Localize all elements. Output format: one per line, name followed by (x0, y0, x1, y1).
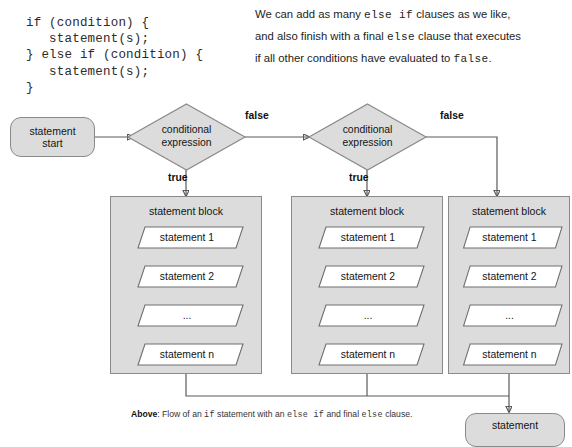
start-node-line1: statement (29, 125, 75, 138)
statement-2-label: statement 2 (312, 265, 424, 288)
statement-block-3-title: statement block (449, 205, 569, 217)
caption-code1: if (204, 410, 215, 420)
statement-n-label: statement n (131, 343, 243, 366)
statement-2-shape: statement 2 (457, 265, 562, 288)
edge-label-false-2: false (440, 110, 464, 121)
decision-2-line1: conditional (343, 124, 393, 137)
statement-ellipsis-label: ... (457, 304, 562, 327)
statement-ellipsis-shape: ... (131, 304, 243, 327)
decision-1-line2: expression (161, 137, 211, 150)
edge-label-true-1: true (168, 172, 188, 183)
statement-block-2: statement block statement 1 statement 2 … (291, 196, 443, 374)
statement-2-shape: statement 2 (131, 265, 243, 288)
statement-ellipsis-label: ... (131, 304, 243, 327)
start-node: statement start (10, 117, 95, 157)
statement-2-shape: statement 2 (312, 265, 424, 288)
statement-block-1-title: statement block (111, 205, 261, 217)
edge-label-true-2: true (349, 172, 369, 183)
decision-node-1: conditional expression (128, 104, 245, 170)
statement-1-label: statement 1 (131, 226, 243, 249)
statement-ellipsis-shape: ... (312, 304, 424, 327)
decision-2-line2: expression (342, 137, 392, 150)
decision-node-2: conditional expression (309, 104, 426, 170)
statement-n-label: statement n (457, 343, 562, 366)
decision-1-line1: conditional (162, 124, 212, 137)
statement-n-shape: statement n (312, 343, 424, 366)
statement-block-2-title: statement block (292, 205, 442, 217)
caption-part1: : Flow of an (157, 409, 204, 419)
statement-block-1: statement block statement 1 statement 2 … (110, 196, 262, 374)
statement-1-label: statement 1 (312, 226, 424, 249)
figure-caption: Above: Flow of an if statement with an e… (131, 409, 491, 421)
statement-1-shape: statement 1 (312, 226, 424, 249)
statement-ellipsis-label: ... (312, 304, 424, 327)
statement-1-shape: statement 1 (131, 226, 243, 249)
caption-label: Above (131, 409, 157, 419)
statement-n-label: statement n (312, 343, 424, 366)
caption-part2: statement with an (215, 409, 287, 419)
edge-label-false-1: false (245, 110, 269, 121)
statement-2-label: statement 2 (457, 265, 562, 288)
caption-part3: and final (324, 409, 361, 419)
caption-code2: else if (287, 410, 324, 420)
caption-part4: clause. (383, 409, 413, 419)
statement-n-shape: statement n (131, 343, 243, 366)
statement-n-shape: statement n (457, 343, 562, 366)
start-node-line2: start (29, 137, 75, 150)
statement-1-label: statement 1 (457, 226, 562, 249)
statement-block-3: statement block statement 1 statement 2 … (448, 196, 570, 374)
end-node-line1: statement (492, 419, 538, 432)
statement-ellipsis-shape: ... (457, 304, 562, 327)
statement-1-shape: statement 1 (457, 226, 562, 249)
statement-2-label: statement 2 (131, 265, 243, 288)
caption-code3: else (361, 410, 382, 420)
